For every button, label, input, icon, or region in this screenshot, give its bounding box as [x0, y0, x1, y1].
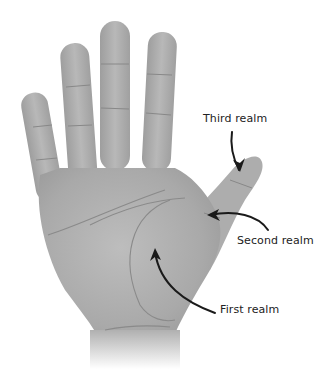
ring-finger [59, 42, 98, 184]
label-third-realm: Third realm [203, 112, 267, 125]
hand-diagram: Third realm Second realm First realm [0, 0, 322, 369]
index-finger [141, 31, 177, 172]
label-second-realm: Second realm [237, 234, 314, 247]
wrist [90, 330, 180, 369]
label-first-realm: First realm [220, 303, 279, 316]
middle-finger [100, 21, 130, 171]
